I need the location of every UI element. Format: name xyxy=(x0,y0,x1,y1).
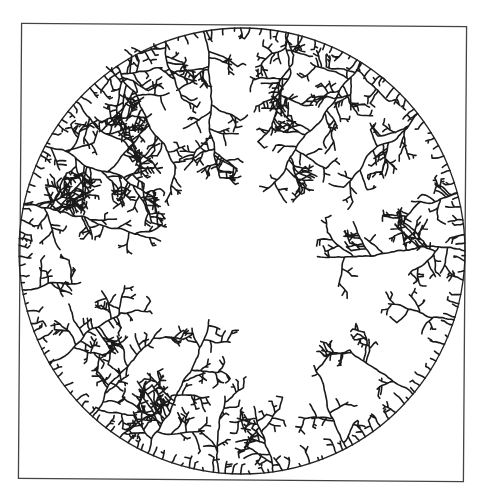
fractal-figure xyxy=(0,0,477,495)
branch-path xyxy=(19,28,465,474)
fractal-branches xyxy=(19,28,465,474)
